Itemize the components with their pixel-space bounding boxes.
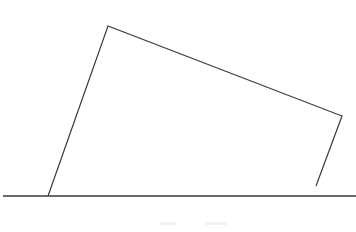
tilted-quadrilateral [48,26,342,196]
caption-mark [205,222,227,225]
quadrilateral-diagram [0,0,356,232]
caption-mark [160,222,176,225]
